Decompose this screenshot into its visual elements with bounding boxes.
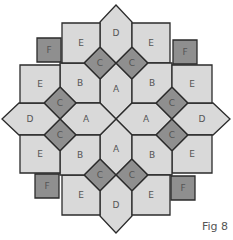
tile-label-b: B — [77, 78, 83, 88]
tile-label-b: B — [149, 78, 155, 88]
tile-label-d: D — [113, 28, 120, 38]
tile-label-f: F — [180, 183, 185, 193]
tile-label-c: C — [129, 58, 135, 68]
tile-label-e: E — [37, 149, 43, 159]
tile-label-d: D — [199, 114, 206, 124]
tile-label-a: A — [83, 114, 90, 124]
tile-label-f: F — [182, 47, 187, 57]
tile-label-e: E — [189, 149, 195, 159]
tile-label-f: F — [44, 181, 49, 191]
tile-label-a: A — [113, 84, 120, 94]
tile-label-f: F — [46, 45, 51, 55]
tile-label-d: D — [113, 200, 120, 210]
tile-label-e: E — [78, 38, 84, 48]
figure-caption: Fig 8 — [202, 220, 228, 233]
tile-label-e: E — [189, 79, 195, 89]
tile-label-c: C — [129, 170, 135, 180]
tile-label-c: C — [57, 130, 63, 140]
tile-label-e: E — [78, 190, 84, 200]
tiling-diagram: ACCDBEEFACCDBEEFACCDBEEFACCDBEEF — [0, 0, 233, 240]
tile-label-a: A — [113, 144, 120, 154]
tile-label-b: B — [77, 150, 83, 160]
tile-label-e: E — [37, 79, 43, 89]
tile-label-d: D — [27, 114, 34, 124]
tile-label-c: C — [97, 170, 103, 180]
tile-label-a: A — [143, 114, 150, 124]
tile-label-e: E — [148, 38, 154, 48]
tile-label-c: C — [169, 130, 175, 140]
tile-label-c: C — [57, 98, 63, 108]
tile-label-c: C — [169, 98, 175, 108]
tile-label-e: E — [148, 190, 154, 200]
tile-label-b: B — [149, 150, 155, 160]
tile-label-c: C — [97, 58, 103, 68]
